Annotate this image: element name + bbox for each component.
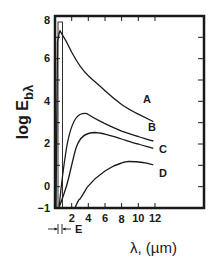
y-tick-label-minus1: −1	[37, 202, 50, 214]
curve-a	[58, 31, 154, 122]
x-tick-label-10: 10	[132, 212, 144, 224]
y-tick-label-6: 6	[44, 52, 50, 64]
band-e-marker	[48, 224, 71, 234]
x-axis-title: λ, (µm)	[130, 239, 177, 256]
svg-text:log Ebλ: log Ebλ	[14, 84, 36, 139]
band-e-label: E	[75, 223, 82, 235]
x-tick-label-12: 12	[149, 212, 161, 224]
y-axis-title: log Ebλ	[14, 84, 36, 139]
y-tick-label-0: 0	[44, 180, 50, 192]
y-tick-label-8: 8	[44, 14, 50, 26]
x-tick-label-4: 4	[85, 212, 92, 224]
curve-label-b: B	[148, 121, 156, 133]
curve-label-d: D	[159, 167, 167, 179]
curve-label-c: C	[159, 143, 167, 155]
y-axis-title-sub: bλ	[21, 84, 36, 100]
curve-label-a: A	[143, 93, 151, 105]
y-tick-label-4: 4	[44, 95, 51, 107]
x-tick-label-2: 2	[69, 212, 75, 224]
plot-frame	[55, 16, 204, 208]
curve-d	[75, 162, 153, 209]
x-tick-label-8: 8	[119, 213, 125, 225]
y-axis-title-main: log E	[14, 100, 31, 139]
chart: A B C D 8 6 4 2 0 −1 2 4 6 8 10 12 E λ, …	[0, 0, 219, 264]
y-tick-label-2: 2	[44, 137, 50, 149]
x-tick-label-6: 6	[102, 212, 108, 224]
